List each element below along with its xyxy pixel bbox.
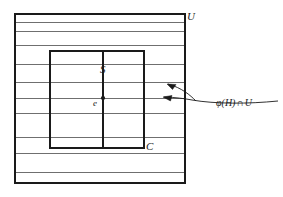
label-compact-set-C: C [146, 141, 153, 152]
annotation-operator: ∩ [235, 97, 244, 108]
horizontal-sheet-lines [15, 22, 185, 172]
label-phi-H-intersect-U: φ(H)∩U [216, 98, 252, 108]
compact-set-C-rect [50, 51, 144, 148]
label-identity-point-e: e [93, 99, 97, 108]
label-sheet-divider-S: S [100, 64, 106, 75]
annotation-argument: (H) [222, 97, 236, 108]
annotation-target: U [245, 97, 252, 108]
identity-point-e-dot [101, 96, 105, 100]
figure-canvas: U S e C φ(H)∩U [0, 0, 283, 197]
label-open-set-U: U [187, 11, 195, 22]
annotation-arrowhead-upper [167, 84, 176, 90]
